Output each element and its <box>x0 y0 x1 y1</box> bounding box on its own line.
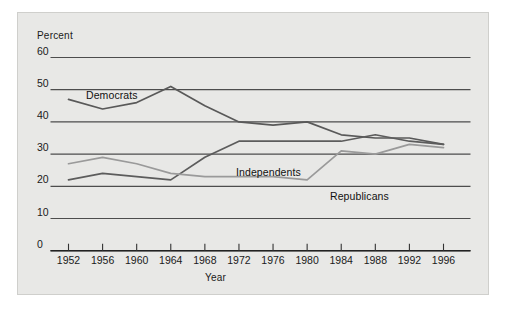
x-tick-label-1996: 1996 <box>426 254 462 266</box>
x-axis-title: Year <box>205 272 226 283</box>
chart-figure: Percent Year Democrats Independents Repu… <box>0 0 510 312</box>
x-tick-label-1980: 1980 <box>289 254 325 266</box>
x-tick-label-1956: 1956 <box>85 254 121 266</box>
x-tick-label-1968: 1968 <box>187 254 223 266</box>
y-tick-label-10: 10 <box>37 206 61 218</box>
y-tick-label-0: 0 <box>37 238 61 250</box>
x-tick-label-1992: 1992 <box>391 254 427 266</box>
y-tick-label-40: 40 <box>37 109 61 121</box>
y-tick-label-20: 20 <box>37 173 61 185</box>
y-axis-title: Percent <box>37 30 73 41</box>
series-label-republicans: Republicans <box>330 190 389 202</box>
x-tick-label-1984: 1984 <box>323 254 359 266</box>
x-tick-label-1976: 1976 <box>255 254 291 266</box>
x-tick-label-1988: 1988 <box>357 254 393 266</box>
x-tick-label-1972: 1972 <box>221 254 257 266</box>
series-label-independents: Independents <box>236 166 301 178</box>
x-tick-label-1964: 1964 <box>153 254 189 266</box>
series-label-democrats: Democrats <box>86 89 138 101</box>
y-tick-label-60: 60 <box>37 45 61 57</box>
y-tick-label-30: 30 <box>37 141 61 153</box>
y-tick-label-50: 50 <box>37 77 61 89</box>
x-tick-label-1952: 1952 <box>51 254 87 266</box>
x-tick-label-1960: 1960 <box>119 254 155 266</box>
